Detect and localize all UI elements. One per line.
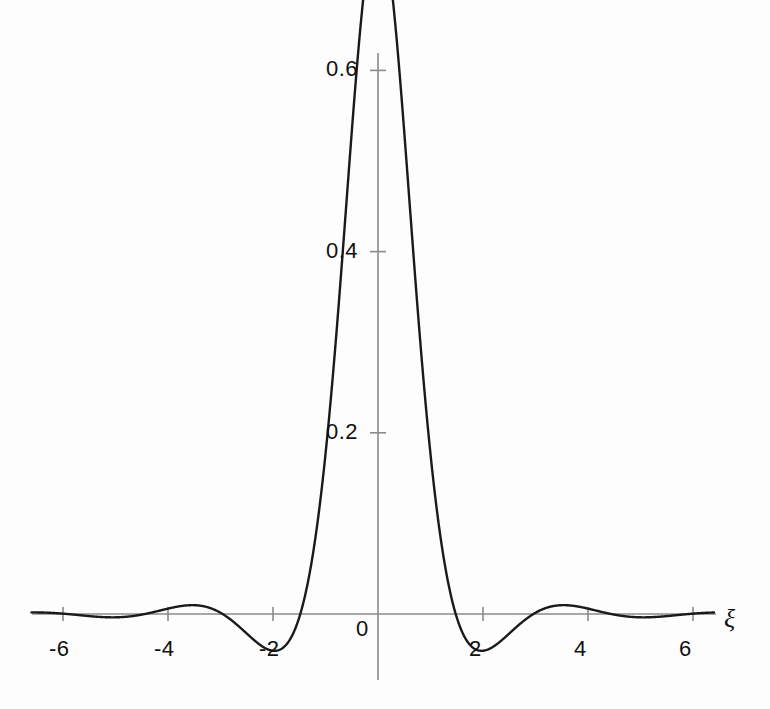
- axes-group: [32, 53, 716, 680]
- x-tick-label: 0: [356, 616, 369, 642]
- x-axis-title: ξ: [724, 604, 735, 634]
- data-curve-line: [32, 0, 715, 651]
- y-tick-label: 0.2: [326, 419, 358, 445]
- x-tick-label: -2: [259, 636, 280, 662]
- x-tick-label: -6: [49, 636, 70, 662]
- plot-canvas: [0, 0, 770, 709]
- y-tick-label: 0.6: [326, 56, 358, 82]
- x-tick-label: 6: [679, 636, 692, 662]
- x-tick-label: 4: [574, 636, 587, 662]
- x-tick-label: 2: [469, 636, 482, 662]
- y-tick-label: 0.4: [326, 238, 358, 264]
- x-tick-label: -4: [154, 636, 175, 662]
- chart-container: -6-4-20246 0.20.40.6 ξ: [0, 0, 770, 709]
